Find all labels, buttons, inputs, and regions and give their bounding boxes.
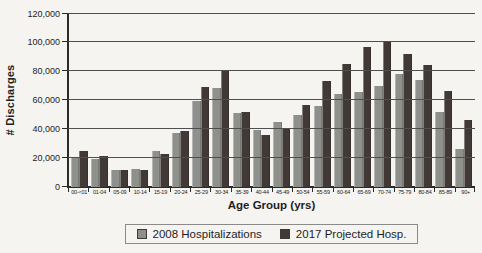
bar-2017 xyxy=(99,156,108,187)
gridline xyxy=(68,41,475,42)
x-tick-label: 20-24 xyxy=(171,189,191,195)
bar-2008 xyxy=(212,88,221,187)
x-tick-label: 90+ xyxy=(456,189,476,195)
bar-group xyxy=(150,13,170,187)
bar-2017 xyxy=(180,131,189,187)
bar-2017 xyxy=(302,105,311,187)
x-tick-label: 00-<01 xyxy=(69,189,89,195)
legend-swatch-icon xyxy=(280,229,290,239)
bar-2008 xyxy=(192,101,201,187)
bar-2017 xyxy=(403,54,412,187)
bar-2017 xyxy=(423,65,432,187)
legend-row: 2008 Hospitalizations2017 Projected Hosp… xyxy=(68,224,475,244)
bar-2017 xyxy=(261,135,270,187)
bar-group xyxy=(272,13,292,187)
bar-group xyxy=(69,13,89,187)
bar-group xyxy=(89,13,109,187)
bar-2008 xyxy=(111,170,120,187)
bar-2008 xyxy=(354,92,363,187)
bar-2017 xyxy=(241,112,250,187)
bar-group xyxy=(332,13,352,187)
x-tick-label: 75-79 xyxy=(395,189,415,195)
legend-item: 2008 Hospitalizations xyxy=(137,228,262,240)
x-tick-label: 15-19 xyxy=(150,189,170,195)
bar-group xyxy=(170,13,190,187)
bar-group xyxy=(130,13,150,187)
bar-2017 xyxy=(120,170,129,187)
bar-group xyxy=(353,13,373,187)
legend-swatch-icon xyxy=(137,229,147,239)
legend-label: 2017 Projected Hosp. xyxy=(296,228,407,240)
bar-2017 xyxy=(363,47,372,187)
bar-2008 xyxy=(131,169,140,187)
bar-2017 xyxy=(160,154,169,187)
bar-2008 xyxy=(435,112,444,187)
x-tick-label: 85-89 xyxy=(435,189,455,195)
y-axis-tick xyxy=(62,13,67,14)
bar-2008 xyxy=(71,157,80,187)
bar-group xyxy=(312,13,332,187)
bar-2008 xyxy=(395,74,404,187)
bar-2008 xyxy=(374,86,383,188)
bar-2017 xyxy=(444,91,453,187)
bar-2008 xyxy=(455,149,464,187)
hospitalizations-bar-chart: # Discharges 020,00040,00060,00080,00010… xyxy=(0,0,482,253)
x-tick-label: 70-74 xyxy=(374,189,394,195)
bar-2008 xyxy=(233,113,242,187)
bar-2017 xyxy=(322,81,331,187)
y-tick-label: 80,000 xyxy=(32,66,60,76)
x-tick-label: 45-49 xyxy=(272,189,292,195)
y-axis-tick xyxy=(62,70,67,71)
x-tick-label: 25-29 xyxy=(191,189,211,195)
bar-2008 xyxy=(273,122,282,187)
bar-group xyxy=(251,13,271,187)
bar-group xyxy=(454,13,474,187)
bar-2008 xyxy=(314,106,323,187)
y-tick-label: 40,000 xyxy=(32,124,60,134)
plot-area xyxy=(68,13,475,187)
y-axis-labels: 020,00040,00060,00080,000100,000120,000 xyxy=(0,13,60,187)
y-axis-tick xyxy=(62,186,67,187)
bar-group xyxy=(292,13,312,187)
x-tick-label: 05-09 xyxy=(110,189,130,195)
x-tick-label: 30-34 xyxy=(211,189,231,195)
bar-group xyxy=(110,13,130,187)
bar-2008 xyxy=(172,133,181,187)
x-tick-label: 35-39 xyxy=(232,189,252,195)
gridline xyxy=(68,99,475,100)
bar-2008 xyxy=(334,94,343,187)
gridline xyxy=(68,128,475,129)
bar-2008 xyxy=(91,159,100,187)
bar-group xyxy=(191,13,211,187)
x-tick-label: 40-44 xyxy=(252,189,272,195)
bar-group xyxy=(413,13,433,187)
bar-group xyxy=(231,13,251,187)
x-tick-label: 50-54 xyxy=(293,189,313,195)
legend: 2008 Hospitalizations2017 Projected Hosp… xyxy=(125,224,419,244)
y-tick-label: 60,000 xyxy=(32,95,60,105)
bar-2017 xyxy=(221,71,230,187)
bar-group xyxy=(393,13,413,187)
legend-item: 2017 Projected Hosp. xyxy=(280,228,407,240)
bar-2017 xyxy=(342,64,351,187)
bar-group xyxy=(211,13,231,187)
y-axis-tick xyxy=(62,41,67,42)
bar-group xyxy=(434,13,454,187)
x-axis-labels: 00-<0101-0405-0910-1415-1920-2425-2930-3… xyxy=(69,189,476,195)
gridline xyxy=(68,13,475,14)
x-tick-label: 80-84 xyxy=(415,189,435,195)
x-tick-label: 55-59 xyxy=(313,189,333,195)
bar-2017 xyxy=(201,87,210,187)
x-tick-label: 10-14 xyxy=(130,189,150,195)
gridline xyxy=(68,157,475,158)
bar-2017 xyxy=(140,170,149,187)
legend-label: 2008 Hospitalizations xyxy=(153,228,262,240)
bar-2017 xyxy=(464,120,473,187)
y-axis-tick xyxy=(62,157,67,158)
bars-container xyxy=(69,13,474,187)
bar-2008 xyxy=(253,130,262,187)
y-axis-tick xyxy=(62,99,67,100)
y-tick-label: 20,000 xyxy=(32,153,60,163)
bar-2008 xyxy=(293,115,302,188)
gridline xyxy=(68,70,475,71)
